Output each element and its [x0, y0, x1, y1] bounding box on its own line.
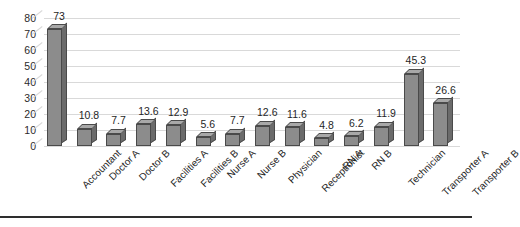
bar[interactable] — [374, 127, 389, 146]
bar[interactable] — [404, 74, 419, 146]
bar-group[interactable]: 7.7 — [222, 18, 252, 146]
bar-front-face — [404, 74, 419, 146]
bar-group[interactable]: 11.9 — [371, 18, 401, 146]
y-axis-tick-label: 80 — [24, 13, 36, 24]
bar-group[interactable]: 73 — [44, 18, 74, 146]
bar-value-label: 4.8 — [319, 120, 334, 131]
x-axis-tick-label: Doctor B — [137, 148, 172, 183]
bar-value-label: 26.6 — [435, 85, 455, 96]
bar[interactable] — [196, 137, 211, 146]
bar-front-face — [136, 124, 151, 146]
bar-front-face — [166, 125, 181, 146]
bar-value-label: 12.6 — [257, 107, 277, 118]
y-axis-tick-label: 60 — [24, 45, 36, 56]
bar-value-label: 5.6 — [200, 119, 215, 130]
bar-group[interactable]: 10.8 — [74, 18, 104, 146]
bar-front-face — [106, 134, 121, 146]
bar-front-face — [196, 137, 211, 146]
bar-front-face — [225, 134, 240, 146]
bar-group[interactable]: 45.3 — [401, 18, 431, 146]
bar-group[interactable]: 26.6 — [430, 18, 460, 146]
bar-value-label: 7.7 — [230, 115, 245, 126]
bar-front-face — [255, 126, 270, 146]
bar-side-face — [448, 97, 453, 143]
bar-group[interactable]: 4.8 — [311, 18, 341, 146]
bar-series: 7310.87.713.612.95.67.712.611.64.86.211.… — [44, 18, 460, 146]
bar-front-face — [77, 129, 92, 146]
bar-front-face — [47, 29, 62, 146]
bar-group[interactable]: 11.6 — [282, 18, 312, 146]
bar-front-face — [374, 127, 389, 146]
bar-front-face — [433, 103, 448, 146]
bar[interactable] — [433, 103, 448, 146]
x-axis-category-labels: AccountantDoctor ADoctor BFacilities AFa… — [44, 148, 460, 210]
bar-side-face — [419, 67, 424, 143]
y-axis-tick-label: 10 — [24, 125, 36, 136]
figure-bottom-rule — [0, 216, 472, 218]
bar-front-face — [285, 127, 300, 146]
bar[interactable] — [47, 29, 62, 146]
bar-value-label: 12.9 — [168, 107, 188, 118]
bar-group[interactable]: 12.6 — [252, 18, 282, 146]
bar-group[interactable]: 5.6 — [193, 18, 223, 146]
bar-value-label: 13.6 — [138, 106, 158, 117]
y-axis-tick-label: 50 — [24, 61, 36, 72]
bar[interactable] — [225, 134, 240, 146]
bar-group[interactable]: 13.6 — [133, 18, 163, 146]
bar[interactable] — [77, 129, 92, 146]
bar[interactable] — [166, 125, 181, 146]
bar[interactable] — [314, 138, 329, 146]
x-axis-tick-label: Technician — [407, 148, 447, 188]
bar-group[interactable]: 6.2 — [341, 18, 371, 146]
y-axis-tick-label: 20 — [24, 109, 36, 120]
bar-value-label: 6.2 — [349, 118, 364, 129]
x-axis-tick-label: RN B — [370, 148, 394, 172]
bar-value-label: 11.9 — [376, 108, 396, 119]
bar-value-label: 45.3 — [406, 55, 426, 66]
bar-value-label: 10.8 — [79, 110, 99, 121]
bar[interactable] — [344, 136, 359, 146]
bar-value-label: 73 — [53, 11, 65, 22]
bar[interactable] — [255, 126, 270, 146]
bar[interactable] — [106, 134, 121, 146]
x-axis-tick-label: Nurse B — [255, 148, 288, 181]
bar-front-face — [314, 138, 329, 146]
bar[interactable] — [136, 124, 151, 146]
bar-side-face — [62, 23, 67, 143]
bar-value-label: 7.7 — [111, 115, 126, 126]
bar[interactable] — [285, 127, 300, 146]
x-axis-tick-label: Physician — [287, 148, 324, 185]
gridline — [44, 146, 460, 147]
bar-value-label: 11.6 — [287, 109, 307, 120]
y-axis-tick-label: 30 — [24, 93, 36, 104]
bar-group[interactable]: 12.9 — [163, 18, 193, 146]
y-axis-tick-label: 70 — [24, 29, 36, 40]
bar-group[interactable]: 7.7 — [103, 18, 133, 146]
bar-front-face — [344, 136, 359, 146]
y-axis-tick-label: 40 — [24, 77, 36, 88]
